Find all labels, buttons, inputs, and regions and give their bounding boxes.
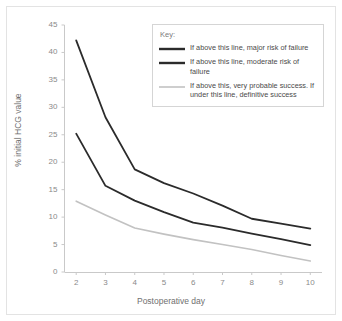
x-tick-label: 7: [215, 278, 231, 287]
series-line-moderate-risk: [76, 134, 310, 245]
y-tick-label: 15: [40, 185, 58, 194]
legend-swatch-probable-success: [159, 85, 185, 89]
chart-legend: Key: If above this line, major risk of f…: [152, 24, 324, 107]
legend-swatch-major-risk: [159, 47, 185, 51]
legend-item-probable-success: If above this, very probable success. If…: [159, 81, 317, 101]
series-line-probable-success: [76, 201, 310, 261]
x-tick-label: 4: [127, 278, 143, 287]
y-tick-label: 25: [40, 130, 58, 139]
legend-label-major-risk: If above this line, major risk of failur…: [190, 43, 308, 53]
x-tick-label: 10: [302, 278, 318, 287]
x-tick-label: 8: [244, 278, 260, 287]
x-tick-label: 6: [185, 278, 201, 287]
legend-item-moderate-risk: If above this line, moderate risk of fai…: [159, 57, 317, 77]
x-axis-title: Postoperative day: [0, 296, 342, 306]
legend-swatch-moderate-risk: [159, 61, 185, 65]
x-tick-label: 3: [97, 278, 113, 287]
y-axis-title: % initial HCG value: [13, 85, 23, 175]
y-tick-label: 45: [40, 20, 58, 29]
legend-title: Key:: [160, 30, 317, 39]
y-tick-label: 5: [40, 240, 58, 249]
chart-figure: 051015202530354045 2345678910 Postoperat…: [0, 0, 342, 321]
y-tick-label: 30: [40, 102, 58, 111]
y-tick-label: 0: [40, 267, 58, 276]
legend-label-moderate-risk: If above this line, moderate risk of fai…: [190, 57, 317, 77]
legend-item-major-risk: If above this line, major risk of failur…: [159, 43, 317, 53]
y-tick-label: 20: [40, 157, 58, 166]
x-tick-label: 2: [68, 278, 84, 287]
y-tick-label: 10: [40, 212, 58, 221]
y-tick-label: 35: [40, 75, 58, 84]
legend-label-probable-success: If above this, very probable success. If…: [190, 81, 317, 101]
y-tick-label: 40: [40, 47, 58, 56]
x-tick-label: 5: [156, 278, 172, 287]
x-tick-label: 9: [273, 278, 289, 287]
